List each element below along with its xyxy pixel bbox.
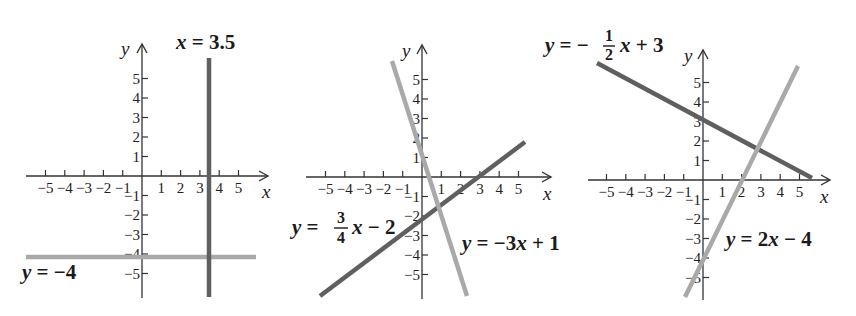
equation-label-2x-minus-4: y = 2x − 4 <box>723 227 812 251</box>
y-tick-label: 3 <box>133 110 141 126</box>
svg-text:x + 3: x + 3 <box>619 33 663 57</box>
x-axis: −5 −4 −3 −2 −1 1 2 3 4 5 x <box>26 170 271 202</box>
y-tick-label: 5 <box>694 75 702 91</box>
x-tick-label: 5 <box>796 184 804 200</box>
y-tick-label: −3 <box>124 227 140 243</box>
equation-label-x-3-5: x = 3.5 <box>175 30 235 54</box>
x-tick-label: −3 <box>76 180 92 196</box>
y-tick-label: 4 <box>133 90 141 106</box>
x-axis: −5 −4 −3 −2 −1 1 2 3 4 5 x <box>588 174 830 207</box>
y-tick-label: −5 <box>404 267 420 283</box>
svg-text:y = −: y = − <box>542 33 589 57</box>
y-tick-label: −4 <box>404 247 420 263</box>
y-axis: 5 4 3 2 1 −1 −2 −3 −4 −5 y <box>400 40 428 299</box>
y-axis-label: y <box>682 45 693 66</box>
x-tick-label: 4 <box>215 180 223 196</box>
y-axis: 5 4 3 2 1 −1 −2 −3 −4 −5 y <box>682 45 709 300</box>
svg-text:1: 1 <box>605 27 613 44</box>
y-tick-label: 1 <box>694 153 702 169</box>
x-tick-label: 1 <box>158 180 166 196</box>
x-tick-label: −2 <box>375 181 391 197</box>
graph-3: −5 −4 −3 −2 −1 1 2 3 4 5 x 5 4 3 2 <box>542 27 830 300</box>
x-tick-label: −4 <box>618 184 634 200</box>
y-tick-label: −1 <box>124 188 140 204</box>
x-tick-label: −2 <box>95 180 111 196</box>
linear-equations-figure: −5 −4 −3 −2 −1 1 2 3 4 5 x 5 4 3 2 <box>0 0 856 316</box>
x-tick-label: 4 <box>495 181 503 197</box>
y-tick-label: −2 <box>685 211 701 227</box>
y-tick-label: −1 <box>685 192 701 208</box>
x-tick-label: −5 <box>318 181 334 197</box>
x-axis-label: x <box>542 183 552 204</box>
x-tick-label: 5 <box>515 181 523 197</box>
x-tick-label: −5 <box>38 180 54 196</box>
y-tick-label: 5 <box>413 72 421 88</box>
graph-2: −5 −4 −3 −2 −1 1 2 3 4 5 x 5 4 3 2 <box>289 40 560 299</box>
x-tick-label: 3 <box>476 181 484 197</box>
y-tick-label: −3 <box>685 231 701 247</box>
y-tick-label: 4 <box>694 94 702 110</box>
svg-text:y =: y = <box>289 215 319 239</box>
y-tick-label: 2 <box>133 129 141 145</box>
y-tick-label: 2 <box>694 133 702 149</box>
equation-label-three-quarter-x-minus-2: y = 3 4 x − 2 <box>289 209 395 246</box>
x-tick-label: 1 <box>438 181 446 197</box>
y-tick-label: 5 <box>133 71 141 87</box>
equation-label-neg3x-plus-1: y = −3x + 1 <box>459 231 560 255</box>
svg-text:3: 3 <box>337 209 345 226</box>
x-tick-label: −3 <box>637 184 653 200</box>
equation-label-neg-half-x-plus-3: y = − 1 2 x + 3 <box>542 27 663 63</box>
x-tick-label: 3 <box>196 180 204 196</box>
x-tick-label: −3 <box>356 181 372 197</box>
y-axis-label: y <box>400 40 411 61</box>
equation-label-y-neg4: y = −4 <box>19 260 77 284</box>
line-2x-minus-4 <box>685 66 798 297</box>
x-tick-label: −4 <box>337 181 353 197</box>
y-axis-label: y <box>119 38 130 59</box>
y-tick-label: −5 <box>124 266 140 282</box>
graph-1: −5 −4 −3 −2 −1 1 2 3 4 5 x 5 4 3 2 <box>19 30 271 298</box>
y-tick-label: −4 <box>124 246 140 262</box>
y-tick-label: 4 <box>413 91 421 107</box>
svg-text:x − 2: x − 2 <box>351 215 395 239</box>
svg-text:4: 4 <box>337 229 345 246</box>
svg-text:2: 2 <box>605 46 613 63</box>
y-tick-label: −1 <box>404 189 420 205</box>
y-tick-label: 1 <box>133 149 141 165</box>
y-tick-label: −2 <box>124 207 140 223</box>
x-axis-label: x <box>261 181 271 202</box>
x-tick-label: 4 <box>776 184 784 200</box>
x-tick-label: −2 <box>656 184 672 200</box>
x-tick-label: 3 <box>757 184 765 200</box>
x-tick-label: 1 <box>719 184 727 200</box>
x-tick-label: 2 <box>177 180 185 196</box>
x-axis-label: x <box>819 186 829 207</box>
x-tick-label: −5 <box>599 184 615 200</box>
x-tick-label: 5 <box>235 180 243 196</box>
x-tick-label: −4 <box>57 180 73 196</box>
